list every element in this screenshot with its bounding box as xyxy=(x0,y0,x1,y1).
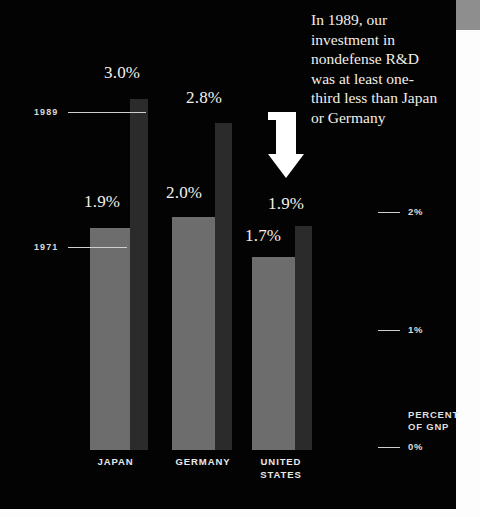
axis-tick-label-0pct: 0% xyxy=(408,441,423,452)
value-label-germany-1971: 2.0% xyxy=(166,183,202,203)
bar-germany-1989 xyxy=(215,123,232,450)
leader-line-1971 xyxy=(68,247,127,248)
bar-japan-1989 xyxy=(130,99,148,450)
bar-united-states-1989 xyxy=(295,226,312,450)
category-label-japan: JAPAN xyxy=(78,455,153,468)
caption-text: In 1989, our investment in nondefense R&… xyxy=(311,10,443,127)
axis-tick-line-0pct xyxy=(378,447,400,448)
corner-block xyxy=(456,0,480,30)
category-label-germany: GERMANY xyxy=(163,455,243,468)
bar-united-states-1971 xyxy=(252,257,295,450)
bar-germany-1971 xyxy=(172,217,215,450)
value-label-germany-1989: 2.8% xyxy=(186,88,222,108)
category-label-united-states-line1: UNITED xyxy=(236,455,326,468)
page-margin-bottom xyxy=(0,509,480,517)
bar-japan-1971 xyxy=(90,228,130,450)
plot-area: 3.0% 1.9% JAPAN 2.8% 2.0% GERMANY 1.9% 1… xyxy=(0,0,456,509)
category-label-germany-line1: GERMANY xyxy=(163,455,243,468)
axis-title-line1: PERCENT xyxy=(408,409,459,421)
axis-tick-label-2pct: 2% xyxy=(408,206,423,217)
value-label-united-states-1989: 1.9% xyxy=(268,194,304,214)
category-label-japan-line1: JAPAN xyxy=(78,455,153,468)
leader-line-1989 xyxy=(68,112,146,113)
axis-tick-line-1pct xyxy=(378,330,400,331)
axis-title-percent-of-gnp: PERCENT OF GNP xyxy=(408,409,459,433)
value-label-japan-1989: 3.0% xyxy=(104,63,140,83)
down-arrow-icon xyxy=(262,108,308,190)
series-tag-1989: 1989 xyxy=(34,107,58,117)
category-label-united-states-line2: STATES xyxy=(236,468,326,481)
value-label-japan-1971: 1.9% xyxy=(84,192,120,212)
axis-tick-label-1pct: 1% xyxy=(408,324,423,335)
axis-tick-line-2pct xyxy=(378,212,400,213)
category-label-united-states: UNITED STATES xyxy=(236,455,326,481)
chart-figure: 3.0% 1.9% JAPAN 2.8% 2.0% GERMANY 1.9% 1… xyxy=(0,0,480,517)
axis-title-line2: OF GNP xyxy=(408,421,459,433)
series-tag-1971: 1971 xyxy=(34,242,58,252)
value-label-united-states-1971: 1.7% xyxy=(245,226,281,246)
page-margin-right xyxy=(456,0,480,517)
